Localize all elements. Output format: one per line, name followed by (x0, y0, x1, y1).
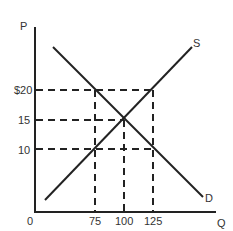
reference-lines (36, 90, 153, 211)
supply-demand-chart: P Q 0 S D $20 15 10 75 100 125 (0, 0, 233, 231)
x-tick-75: 75 (89, 215, 101, 227)
demand-label: D (205, 192, 213, 204)
y-tick-10: 10 (18, 144, 30, 156)
supply-curve (45, 47, 192, 200)
x-tick-125: 125 (144, 215, 162, 227)
origin-label: 0 (27, 215, 33, 227)
x-tick-100: 100 (115, 215, 133, 227)
y-axis-label: P (20, 20, 27, 32)
x-axis-label: Q (217, 217, 226, 229)
y-tick-15: 15 (18, 114, 30, 126)
supply-label: S (193, 37, 200, 49)
demand-curve (53, 47, 203, 197)
y-tick-20: $20 (14, 84, 32, 96)
